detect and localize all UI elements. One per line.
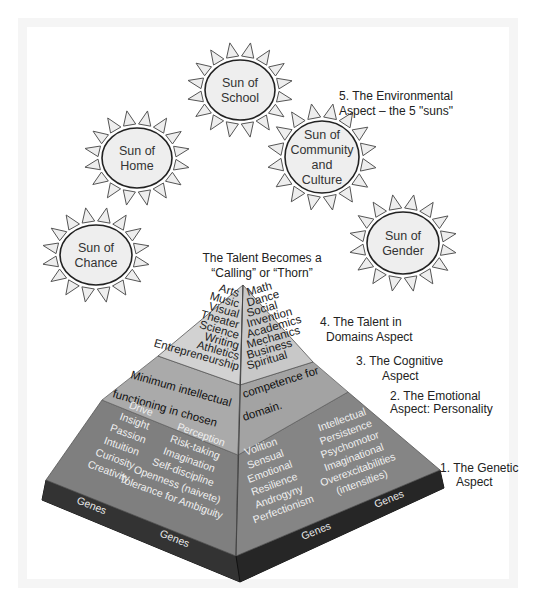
sun-ray-icon — [43, 243, 58, 254]
sun-ray-icon — [66, 215, 79, 230]
sun-label: Sun of — [78, 241, 115, 255]
sun-ray-icon — [188, 78, 203, 89]
sun-ray-icon — [139, 111, 151, 126]
sun-ray-icon — [268, 104, 283, 117]
svg-text:Aspect: Personality: Aspect: Personality — [390, 402, 493, 416]
sun-ray-icon — [358, 216, 374, 229]
sun-ray-icon — [420, 269, 433, 284]
sun-school: Sun ofSchool — [188, 43, 292, 137]
sun-ray-icon — [404, 276, 417, 291]
sun-ray-icon — [405, 195, 417, 210]
sun-label: Culture — [302, 173, 342, 187]
sun-label: School — [221, 91, 259, 105]
sun-ray-icon — [85, 146, 100, 157]
sun-ray-icon — [389, 195, 402, 210]
sun-ray-icon — [51, 228, 67, 241]
sun-ray-icon — [166, 131, 182, 143]
sun-label: Sun of — [304, 128, 341, 142]
sun-ray-icon — [125, 228, 141, 240]
sun-ray-icon — [242, 43, 254, 58]
sun-ray-icon — [441, 231, 456, 242]
apex-label: The Talent Becomes a “Calling” or “Thorn… — [202, 251, 322, 280]
sun-ray-icon — [153, 183, 166, 198]
sun-ray-icon — [43, 256, 58, 267]
aspect-label-environmental: 5. The Environmental Aspect – the 5 "sun… — [339, 89, 453, 118]
sun-ray-icon — [241, 122, 253, 137]
sun-ray-icon — [226, 122, 238, 137]
sun-label: Community — [290, 143, 354, 157]
sun-ray-icon — [82, 208, 95, 223]
sun-ray-icon — [256, 115, 269, 130]
sun-ray-icon — [196, 104, 212, 116]
sun-label: Chance — [74, 256, 117, 270]
svg-text:Domains Aspect: Domains Aspect — [326, 330, 413, 344]
sun-ray-icon — [323, 195, 336, 210]
sun-ray-icon — [153, 118, 166, 133]
sun-ray-icon — [123, 190, 135, 205]
sun-ray-icon — [173, 159, 188, 170]
svg-text:5. The Environmental: 5. The Environmental — [339, 89, 453, 103]
svg-text:4. The Talent in: 4. The Talent in — [320, 315, 402, 329]
sun-ray-icon — [93, 131, 108, 144]
sun-ray-icon — [432, 216, 448, 229]
aspect-label-cognitive: 3. The Cognitive Aspect — [356, 354, 443, 383]
sun-ray-icon — [358, 257, 374, 270]
sun-gender: Sun ofGender — [350, 195, 456, 291]
sun-ray-icon — [277, 78, 292, 89]
sun-ray-icon — [269, 63, 285, 75]
svg-text:2. The Emotional: 2. The Emotional — [390, 389, 481, 403]
svg-text:The Talent Becomes a: The Talent Becomes a — [202, 251, 322, 265]
aspect-label-emotional: 2. The Emotional Aspect: Personality — [390, 389, 493, 416]
sun-ray-icon — [440, 244, 455, 255]
sun-ray-icon — [113, 280, 126, 295]
sun-ray-icon — [268, 143, 284, 155]
sun-ray-icon — [51, 269, 67, 281]
svg-text:Aspect: Aspect — [456, 475, 493, 489]
sun-ray-icon — [196, 63, 211, 76]
sun-ray-icon — [227, 43, 239, 58]
svg-text:Aspect: Aspect — [382, 369, 419, 383]
sun-ray-icon — [133, 256, 148, 267]
sun-label: and — [312, 158, 333, 172]
sun-ray-icon — [324, 104, 337, 119]
sun-chance: Sun ofChance — [43, 208, 149, 302]
sun-ray-icon — [66, 280, 79, 295]
sun-ray-icon — [373, 269, 386, 284]
sun-ray-icon — [276, 91, 291, 102]
sun-label: Sun of — [119, 144, 156, 158]
sun-label: Sun of — [385, 229, 422, 243]
sun-ray-icon — [256, 50, 269, 65]
sun-ray-icon — [360, 159, 376, 171]
sun-ray-icon — [113, 215, 126, 230]
sun-ray-icon — [98, 208, 110, 223]
sun-ray-icon — [188, 91, 203, 102]
sun-ray-icon — [210, 115, 223, 130]
sun-ray-icon — [211, 50, 224, 65]
sun-ray-icon — [85, 159, 100, 170]
sun-ray-icon — [97, 287, 110, 302]
sun-ray-icon — [350, 244, 365, 255]
sun-ray-icon — [93, 172, 109, 184]
sun-ray-icon — [165, 172, 180, 185]
sun-ray-icon — [420, 202, 433, 217]
sun-ray-icon — [134, 243, 149, 254]
sun-ray-icon — [308, 104, 321, 119]
sun-home: Sun ofHome — [85, 111, 189, 205]
aspect-label-genetic: 1. The Genetic Aspect — [440, 461, 519, 489]
sun-ray-icon — [82, 287, 94, 302]
aspect-label-domains: 4. The Talent in Domains Aspect — [320, 315, 413, 344]
sun-ray-icon — [360, 143, 376, 156]
sun-ray-icon — [373, 202, 386, 217]
sun-ray-icon — [389, 276, 401, 291]
svg-text:3. The Cognitive: 3. The Cognitive — [356, 354, 443, 368]
svg-text:1. The Genetic: 1. The Genetic — [440, 461, 519, 475]
sun-ray-icon — [138, 190, 150, 205]
sun-ray-icon — [308, 194, 321, 209]
sun-ray-icon — [108, 118, 121, 133]
sun-ray-icon — [432, 258, 448, 271]
sun-ray-icon — [125, 269, 141, 282]
sun-label: Sun of — [222, 76, 259, 90]
sun-ray-icon — [174, 146, 189, 157]
sun-ray-icon — [124, 111, 136, 126]
sun-label: Home — [120, 159, 153, 173]
